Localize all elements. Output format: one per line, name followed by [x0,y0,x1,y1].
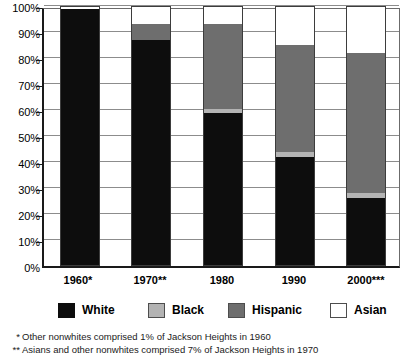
stacked-bar[interactable] [346,9,386,266]
x-tick-label-1990: 1990 [258,274,330,286]
legend-swatch-white-icon [58,303,75,318]
bar-segment-hispanic[interactable] [346,53,386,193]
bar-segment-white[interactable] [203,113,243,266]
bar-segment-white[interactable] [60,9,100,266]
y-tick-label: 90% [0,29,40,40]
bar-group-1990[interactable] [275,9,315,266]
bar-segment-asian[interactable] [275,6,315,45]
y-tick-label: 0% [0,263,40,274]
legend-swatch-hispanic-icon [228,303,245,318]
footnote-text-1: Other nonwhites comprised 1% of Jackson … [22,330,271,343]
y-tick-label: 20% [0,211,40,222]
bar-group-1960[interactable] [60,9,100,266]
legend-swatch-black-icon [148,303,165,318]
bar-segment-hispanic[interactable] [131,24,171,40]
y-tick-label: 30% [0,185,40,196]
y-tick-label: 100% [0,3,40,14]
legend-item-black: Black [148,300,204,320]
legend-item-white: White [58,300,115,320]
stacked-bar[interactable] [203,9,243,266]
y-tick-label: 70% [0,81,40,92]
footnote-2: ** Asians and other nonwhites comprised … [0,343,406,356]
legend-item-hispanic: Hispanic [228,300,302,320]
y-tick-label: 50% [0,133,40,144]
x-tick-label-1960: 1960* [42,274,114,286]
y-tick-label: 80% [0,55,40,66]
bar-segment-asian[interactable] [203,6,243,24]
y-tick-label: 40% [0,159,40,170]
x-tick-label-1980: 1980 [186,274,258,286]
bar-segment-asian[interactable] [346,6,386,53]
legend-label-black: Black [172,304,204,317]
bar-group-1970[interactable] [131,9,171,266]
bar-group-2000[interactable] [346,9,386,266]
bar-segment-black[interactable] [346,193,386,198]
plot-area [42,8,400,268]
bar-segment-black[interactable] [203,109,243,113]
x-tick-label-1970: 1970** [114,274,186,286]
stacked-bar[interactable] [60,9,100,266]
bar-segment-hispanic[interactable] [275,45,315,152]
stacked-bar-chart: 100% 90% 80% 70% 60% 50% 40% 30% 20% 10%… [0,0,406,362]
legend-label-hispanic: Hispanic [252,304,302,317]
footnote-marker-2: ** [0,343,20,356]
x-tick-label-2000: 2000*** [328,274,404,286]
y-tick-label: 60% [0,107,40,118]
bar-segment-white[interactable] [131,40,171,266]
stacked-bar[interactable] [275,9,315,266]
footnote-text-2: Asians and other nonwhites comprised 7% … [22,343,318,356]
footnote-1: * Other nonwhites comprised 1% of Jackso… [0,330,406,343]
bar-segment-white[interactable] [346,198,386,266]
stacked-bar[interactable] [131,9,171,266]
footnote-marker-1: * [0,330,20,343]
legend-label-asian: Asian [354,304,387,317]
bar-segment-black[interactable] [275,152,315,157]
bar-segment-asian[interactable] [131,6,171,24]
bar-group-1980[interactable] [203,9,243,266]
chart-legend: White Black Hispanic Asian [0,300,406,324]
legend-item-asian: Asian [330,300,387,320]
legend-label-white: White [82,304,115,317]
y-tick-label: 10% [0,237,40,248]
bar-segment-hispanic[interactable] [203,24,243,109]
chart-footnotes: * Other nonwhites comprised 1% of Jackso… [0,330,406,356]
bar-segment-asian[interactable] [60,6,100,9]
legend-swatch-asian-icon [330,303,347,318]
bar-segment-white[interactable] [275,157,315,266]
